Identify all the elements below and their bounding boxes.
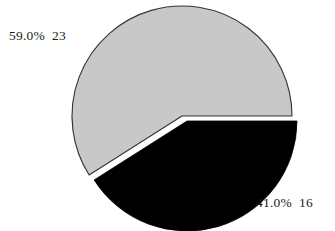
pie-slice-label-gray: 59.0% 23: [9, 29, 66, 43]
pie-chart-figure: 59.0% 23 41.0% 16: [0, 0, 335, 231]
pie-slice-label-black: 41.0% 16: [256, 196, 313, 210]
